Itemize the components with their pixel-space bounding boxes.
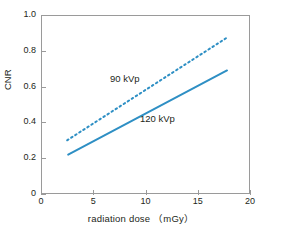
x-tick-mark: [41, 190, 42, 195]
x-tick-mark: [93, 190, 94, 195]
x-tick-mark: [146, 190, 147, 195]
y-tick-mark: [41, 15, 46, 16]
x-tick-label: 0: [29, 197, 53, 206]
y-tick-mark: [41, 87, 46, 88]
y-tick-label: 0.6: [23, 82, 36, 91]
series-line-90-kvp: [67, 38, 226, 140]
x-tick-label: 5: [81, 197, 105, 206]
y-tick-label: 0.2: [23, 153, 36, 162]
x-tick-label: 15: [186, 197, 210, 206]
x-tick-label: 10: [134, 197, 158, 206]
y-tick-label: 1.0: [23, 10, 36, 19]
y-tick-mark: [41, 51, 46, 52]
y-tick-mark: [41, 122, 46, 123]
series-label-90-kvp: 90 kVp: [110, 73, 140, 84]
x-tick-mark: [250, 190, 251, 195]
x-axis-title: radiation dose （mGy）: [0, 211, 282, 225]
y-axis-title: CNR: [2, 69, 13, 90]
y-tick-label: 0.8: [23, 46, 36, 55]
y-tick-mark: [41, 158, 46, 159]
y-tick-label: 0.4: [23, 117, 36, 126]
series-label-120-kvp: 120 kVp: [140, 113, 175, 124]
x-tick-mark: [198, 190, 199, 195]
x-tick-label: 20: [238, 197, 262, 206]
chart-figure: 00.20.40.60.81.0 05101520 CNR radiation …: [0, 0, 282, 229]
